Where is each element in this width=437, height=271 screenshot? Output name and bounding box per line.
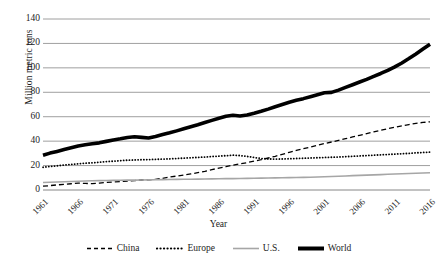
x-axis-tick-labels: 1961196619711976198119861991199620012006… (0, 0, 437, 271)
legend-label: U.S. (263, 243, 280, 253)
legend-item-us[interactable]: U.S. (232, 243, 280, 253)
legend-label: World (328, 243, 352, 253)
legend-swatch-europe-icon (156, 244, 184, 253)
chart-figure: Million metric tons 020406080100120140 1… (0, 0, 437, 271)
legend-label: China (117, 243, 140, 253)
legend-swatch-us-icon (232, 244, 260, 253)
legend-item-europe[interactable]: Europe (156, 243, 214, 253)
legend-swatch-world-icon (297, 244, 325, 253)
legend-label: Europe (187, 243, 214, 253)
legend-swatch-china-icon (86, 244, 114, 253)
legend-item-world[interactable]: World (297, 243, 352, 253)
chart-legend: ChinaEuropeU.S.World (0, 243, 437, 253)
x-axis-title: Year (0, 219, 437, 229)
legend-item-china[interactable]: China (86, 243, 140, 253)
